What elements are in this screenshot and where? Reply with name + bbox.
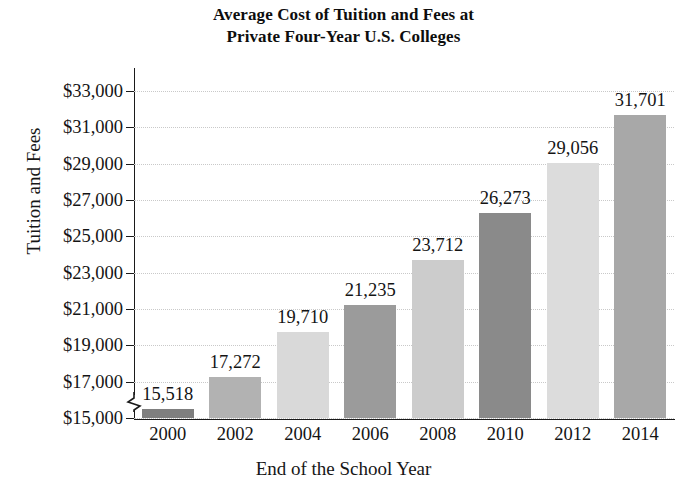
y-axis-tick	[126, 127, 134, 128]
y-axis-tick	[126, 382, 134, 383]
gridline	[134, 418, 674, 419]
bar-2014: 31,701	[614, 115, 666, 418]
plot-area: $15,000$17,000$19,000$21,000$23,000$25,0…	[134, 68, 674, 418]
gridline	[134, 127, 674, 128]
y-axis-tick-label: $31,000	[63, 117, 123, 138]
x-axis-tick-label-2004: 2004	[284, 424, 321, 445]
y-axis-tick	[126, 164, 134, 165]
y-axis-tick	[126, 91, 134, 92]
y-axis-tick	[126, 309, 134, 310]
chart-title: Average Cost of Tuition and Fees at Priv…	[0, 4, 687, 48]
y-axis-tick-label: $29,000	[63, 153, 123, 174]
bar-2000: 15,518	[142, 409, 194, 418]
bar-value-label: 17,272	[210, 352, 261, 373]
gridline	[134, 91, 674, 92]
x-axis-tick-label-2012: 2012	[554, 424, 591, 445]
bar-2002: 17,272	[209, 377, 261, 418]
bar-value-label: 26,273	[480, 188, 531, 209]
y-axis-tick-label: $15,000	[63, 408, 123, 429]
x-axis-tick-label-2006: 2006	[352, 424, 389, 445]
x-axis-tick-label-2010: 2010	[487, 424, 524, 445]
bar-chart: Average Cost of Tuition and Fees at Priv…	[0, 0, 687, 491]
x-axis-line	[134, 419, 675, 420]
bar-value-label: 29,056	[547, 138, 598, 159]
bar-2006: 21,235	[344, 305, 396, 418]
bar-value-label: 31,701	[615, 90, 666, 111]
y-axis-tick	[126, 200, 134, 201]
bar-value-label: 23,712	[412, 235, 463, 256]
y-axis-tick	[126, 273, 134, 274]
chart-title-line-2: Private Four-Year U.S. Colleges	[0, 26, 687, 48]
x-axis-label: End of the School Year	[0, 458, 687, 480]
bar-2008: 23,712	[412, 260, 464, 418]
y-axis-tick-label: $23,000	[63, 262, 123, 283]
y-axis-tick-label: $27,000	[63, 190, 123, 211]
x-axis-tick-label-2000: 2000	[149, 424, 186, 445]
chart-title-line-1: Average Cost of Tuition and Fees at	[0, 4, 687, 26]
y-axis-tick-label: $21,000	[63, 299, 123, 320]
y-axis-tick	[126, 345, 134, 346]
y-axis-tick-label: $33,000	[63, 81, 123, 102]
bar-value-label: 21,235	[345, 280, 396, 301]
x-axis-tick-label-2002: 2002	[217, 424, 254, 445]
bar-value-label: 15,518	[142, 384, 193, 405]
bar-2004: 19,710	[277, 332, 329, 418]
x-axis-tick-label-2008: 2008	[419, 424, 456, 445]
bar-2010: 26,273	[479, 213, 531, 418]
y-axis-tick-label: $17,000	[63, 371, 123, 392]
y-axis-tick	[126, 236, 134, 237]
bar-2012: 29,056	[547, 163, 599, 418]
y-axis-tick-label: $25,000	[63, 226, 123, 247]
y-axis-label: Tuition and Fees	[23, 91, 45, 291]
bar-value-label: 19,710	[277, 307, 328, 328]
y-axis-tick-label: $19,000	[63, 335, 123, 356]
x-axis-tick-label-2014: 2014	[622, 424, 659, 445]
y-axis-tick	[126, 418, 134, 419]
